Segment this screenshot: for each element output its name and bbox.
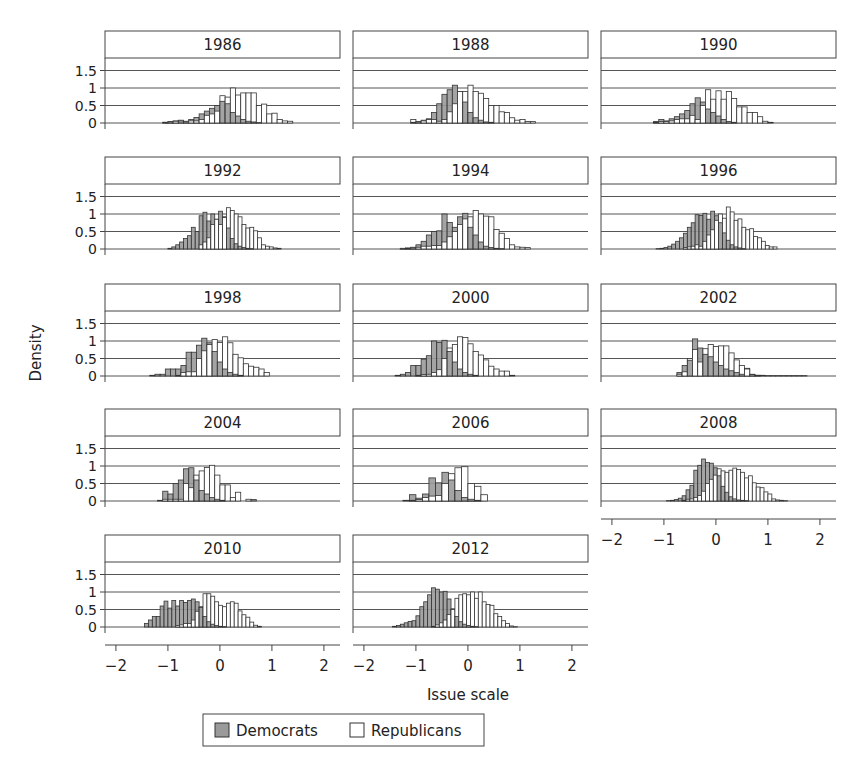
bar-republicans: [254, 231, 258, 249]
bar-democrats: [416, 366, 421, 377]
faceted-histogram-chart: 198600.511.519881990199200.511.519941996…: [0, 0, 863, 776]
bar-republicans: [494, 229, 499, 249]
bar-democrats: [207, 622, 211, 627]
bar-democrats: [458, 369, 463, 376]
bar-democrats: [725, 492, 729, 501]
bar-republicans: [695, 120, 700, 124]
y-tick-label: 1: [88, 80, 97, 96]
bar-democrats: [680, 238, 684, 249]
bar-republicans: [187, 624, 191, 628]
bar-republicans: [191, 620, 195, 627]
bar-democrats: [187, 600, 191, 627]
bar-democrats: [168, 248, 172, 249]
bar-republicans: [442, 242, 447, 249]
bar-democrats: [180, 242, 184, 249]
bar-democrats: [738, 248, 742, 249]
bar-democrats: [203, 617, 207, 628]
histogram-bars: [400, 211, 530, 250]
bar-democrats: [721, 120, 726, 124]
bar-republicans: [256, 106, 261, 124]
bar-democrats: [199, 491, 204, 502]
bar-republicans: [691, 246, 695, 249]
bar-republicans: [163, 499, 168, 501]
bar-republicans: [409, 500, 416, 501]
bar-republicans: [473, 352, 478, 377]
y-axis-title: Density: [27, 324, 45, 381]
panel-2010: 201000.511.5−2−1012: [75, 535, 340, 675]
bar-republicans: [442, 120, 447, 124]
y-tick-label: 1: [88, 206, 97, 222]
bar-democrats: [468, 499, 475, 501]
bar-republicans: [654, 122, 659, 123]
bar-democrats: [664, 248, 668, 249]
bar-democrats: [241, 120, 246, 124]
bar-republicans: [447, 112, 452, 123]
bar-republicans: [769, 247, 773, 249]
bar-republicans: [204, 115, 209, 123]
bar-republicans: [452, 104, 457, 123]
panel-2012: 2012−2−1012: [353, 535, 588, 675]
bar-democrats: [396, 626, 400, 627]
bar-democrats: [172, 247, 176, 249]
bar-republicans: [707, 235, 711, 249]
bar-republicans: [481, 495, 488, 501]
bar-republicans: [520, 247, 525, 249]
bar-republicans: [238, 217, 242, 249]
bar-republicans: [499, 371, 504, 376]
bar-democrats: [404, 623, 408, 627]
bar-democrats: [455, 617, 459, 628]
bar-republicans: [259, 369, 264, 376]
bar-democrats: [215, 499, 220, 501]
bar-democrats: [732, 122, 737, 123]
bar-republicans: [447, 614, 451, 627]
bar-republicans: [760, 488, 764, 501]
bar-democrats: [411, 122, 416, 123]
bar-republicans: [189, 488, 194, 501]
bar-republicans: [273, 248, 277, 249]
bar-republicans: [223, 607, 227, 627]
x-tick-label: 1: [267, 657, 277, 675]
panel-year-label: 1994: [451, 162, 489, 180]
bar-republicans: [669, 121, 674, 123]
bar-republicans: [215, 219, 219, 249]
bar-republicans: [768, 122, 773, 123]
bar-republicans: [458, 225, 463, 250]
bar-republicans: [426, 374, 431, 376]
panel-1988: 1988: [353, 31, 588, 129]
bar-democrats: [400, 624, 404, 627]
bar-republicans: [228, 343, 233, 376]
panel-year-label: 2002: [699, 289, 737, 307]
bar-democrats: [165, 369, 170, 376]
panel-year-label: 1986: [203, 36, 241, 54]
bar-republicans: [215, 602, 219, 627]
bar-republicans: [484, 216, 489, 249]
x-tick-label: 0: [215, 657, 225, 675]
bar-democrats: [150, 375, 155, 376]
bar-republicans: [168, 122, 173, 123]
bar-republicans: [250, 227, 254, 249]
legend-swatch-republicans: [350, 723, 364, 737]
y-tick-label: 1.5: [75, 441, 97, 457]
bar-democrats: [474, 500, 481, 501]
bar-democrats: [176, 606, 180, 627]
bar-republicans: [463, 338, 468, 377]
bar-republicans: [745, 478, 749, 501]
bar-democrats: [156, 617, 160, 628]
bar-republicans: [498, 617, 502, 628]
bar-democrats: [695, 215, 699, 249]
x-tick-label: 0: [463, 657, 473, 675]
bar-democrats: [674, 500, 678, 501]
bar-democrats: [148, 620, 152, 627]
bar-democrats: [424, 602, 428, 627]
bar-democrats: [672, 244, 676, 249]
bar-democrats: [411, 366, 416, 377]
bar-democrats: [155, 374, 160, 376]
bar-democrats: [463, 373, 468, 377]
bar-republicans: [186, 372, 191, 376]
bar-democrats: [489, 122, 494, 123]
bar-democrats: [442, 94, 447, 123]
bar-republicans: [494, 614, 498, 627]
bar-democrats: [452, 362, 457, 376]
bar-republicans: [178, 499, 183, 501]
bar-republicans: [421, 246, 426, 249]
